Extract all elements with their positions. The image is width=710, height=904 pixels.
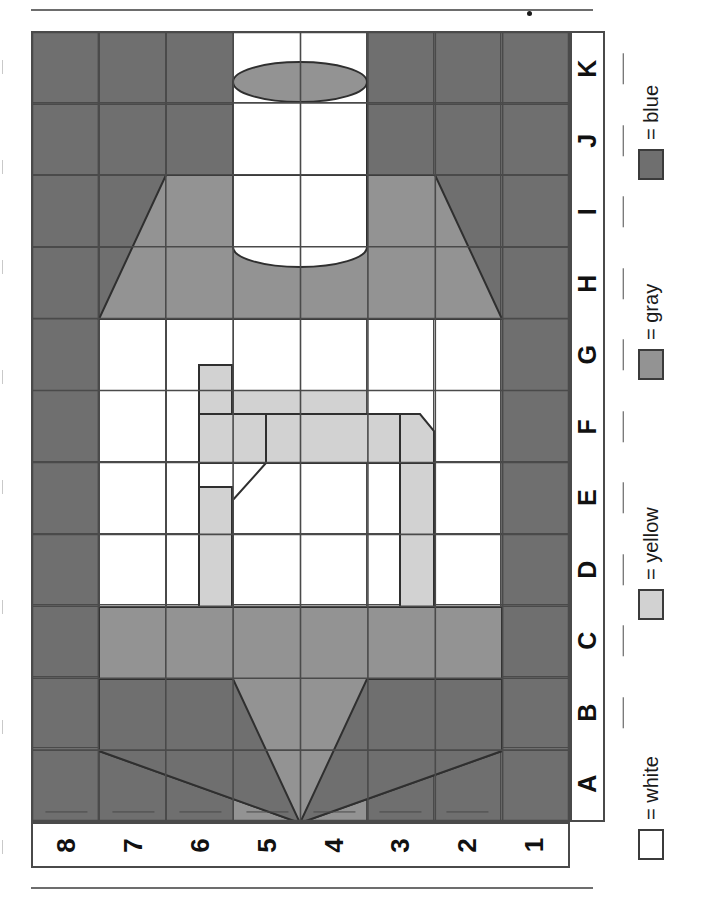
grid-cell[interactable] [234, 391, 301, 463]
margin-tick [2, 260, 3, 274]
grid-cell[interactable] [367, 248, 434, 320]
grid-cell[interactable] [33, 677, 100, 749]
margin-tick [2, 160, 3, 174]
grid-cell[interactable] [167, 534, 234, 606]
grid-cell[interactable] [434, 605, 501, 677]
grid-cell[interactable] [367, 677, 434, 749]
grid-cell[interactable] [234, 176, 301, 248]
grid-cell[interactable] [234, 677, 301, 749]
row-label-column: KJIHGFEDCBA [570, 31, 605, 822]
grid-cell[interactable] [33, 605, 100, 677]
grid-cell[interactable] [301, 748, 368, 820]
legend-item-yellow[interactable]: = yellow [634, 500, 668, 620]
grid-cell[interactable] [100, 748, 167, 820]
grid-cell[interactable] [434, 462, 501, 534]
grid-cell[interactable] [434, 176, 501, 248]
grid-cell[interactable] [367, 534, 434, 606]
row-label-h: H [552, 268, 624, 299]
grid-cell[interactable] [33, 248, 100, 320]
grid-cell[interactable] [234, 605, 301, 677]
row-label-j: J [552, 125, 624, 156]
grid-cell[interactable] [434, 391, 501, 463]
grid-cell[interactable] [234, 534, 301, 606]
grid-cell[interactable] [301, 462, 368, 534]
grid-cell[interactable] [100, 605, 167, 677]
legend-swatch-white [638, 829, 664, 860]
grid-cell[interactable] [301, 319, 368, 391]
grid-cell[interactable] [367, 391, 434, 463]
grid-cell[interactable] [301, 33, 368, 105]
grid-cell[interactable] [234, 248, 301, 320]
grid-cell[interactable] [167, 319, 234, 391]
legend-item-white[interactable]: = white [634, 740, 668, 860]
grid-cell[interactable] [100, 33, 167, 105]
grid-cell[interactable] [100, 248, 167, 320]
grid-cell[interactable] [167, 105, 234, 177]
grid-cell[interactable] [367, 176, 434, 248]
grid-cell[interactable] [33, 748, 100, 820]
grid-cell[interactable] [434, 534, 501, 606]
column-label-7: 7 [112, 812, 154, 879]
grid-cell[interactable] [167, 33, 234, 105]
column-label-4: 4 [313, 812, 355, 879]
grid-cell[interactable] [301, 105, 368, 177]
grid-cell[interactable] [100, 534, 167, 606]
grid-cell[interactable] [100, 462, 167, 534]
grid-cell[interactable] [301, 176, 368, 248]
grid-cell[interactable] [100, 319, 167, 391]
grid-cell[interactable] [167, 605, 234, 677]
grid-cell[interactable] [100, 391, 167, 463]
legend-swatch-blue [638, 149, 664, 180]
grid-cell[interactable] [234, 33, 301, 105]
grid-cell[interactable] [100, 677, 167, 749]
grid-cell[interactable] [367, 105, 434, 177]
margin-tick [2, 60, 3, 74]
grid-cell[interactable] [167, 176, 234, 248]
grid-cell[interactable] [367, 319, 434, 391]
legend-item-gray[interactable]: = gray [634, 260, 668, 380]
grid-cell[interactable] [234, 319, 301, 391]
grid-cell[interactable] [434, 319, 501, 391]
row-label-d: D [552, 554, 624, 585]
grid-cell[interactable] [167, 677, 234, 749]
grid-cell[interactable] [367, 33, 434, 105]
grid-cell[interactable] [33, 176, 100, 248]
grid-cell[interactable] [100, 105, 167, 177]
coloring-grid[interactable] [31, 31, 570, 822]
margin-tick [2, 480, 3, 494]
grid-cell[interactable] [367, 748, 434, 820]
grid-cell[interactable] [234, 748, 301, 820]
grid-cell[interactable] [301, 677, 368, 749]
grid-cells[interactable] [31, 31, 570, 822]
grid-cell[interactable] [33, 33, 100, 105]
grid-cell[interactable] [33, 462, 100, 534]
grid-cell[interactable] [434, 248, 501, 320]
grid-cell[interactable] [434, 748, 501, 820]
grid-cell[interactable] [234, 105, 301, 177]
row-label-c: C [552, 626, 624, 657]
grid-cell[interactable] [434, 105, 501, 177]
grid-cell[interactable] [167, 462, 234, 534]
grid-cell[interactable] [167, 248, 234, 320]
grid-cell[interactable] [33, 105, 100, 177]
grid-cell[interactable] [33, 534, 100, 606]
grid-cell[interactable] [167, 391, 234, 463]
grid-cell[interactable] [434, 33, 501, 105]
grid-cell[interactable] [234, 462, 301, 534]
grid-cell[interactable] [167, 748, 234, 820]
grid-cell[interactable] [100, 176, 167, 248]
grid-cell[interactable] [33, 391, 100, 463]
grid-cell[interactable] [301, 391, 368, 463]
column-label-row: 87654321 [31, 822, 570, 868]
grid-cell[interactable] [367, 462, 434, 534]
grid-cell[interactable] [33, 319, 100, 391]
grid-cell[interactable] [301, 605, 368, 677]
grid-cell[interactable] [367, 605, 434, 677]
grid-cell[interactable] [434, 677, 501, 749]
legend-label-yellow: = yellow [640, 507, 663, 580]
margin-tick [2, 370, 3, 384]
legend-item-blue[interactable]: = blue [634, 60, 668, 180]
row-label-f: F [552, 411, 624, 442]
grid-cell[interactable] [301, 248, 368, 320]
grid-cell[interactable] [301, 534, 368, 606]
